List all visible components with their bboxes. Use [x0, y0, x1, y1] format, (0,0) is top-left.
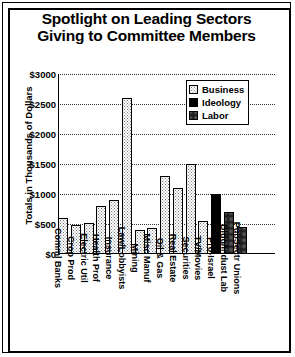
legend-item-labor: Labor	[189, 109, 244, 122]
x-axis-tick-labels: Comml BanksCrop ProdElectric UtilHealth …	[58, 256, 275, 352]
legend-label-business: Business	[202, 84, 244, 95]
chart-title-line-1: Spotlight on Leading Sectors	[42, 10, 252, 27]
x-tick-label: Crop Prod	[66, 236, 76, 280]
y-axis-tick-1: $2500	[8, 99, 56, 110]
x-tick-14: PubSectr Unions	[237, 256, 247, 352]
legend-item-business: Business	[189, 83, 244, 96]
legend-swatch-labor	[189, 111, 198, 120]
x-tick-label: Comml Banks	[53, 228, 63, 288]
legend-item-ideology: Ideology	[189, 96, 244, 109]
x-tick-label: Mining	[130, 244, 140, 273]
x-tick-label: Oil & Gas	[155, 238, 165, 279]
y-axis-tick-6: $0	[8, 249, 56, 260]
legend-label-ideology: Ideology	[202, 97, 241, 108]
x-tick-label: Insurance	[104, 237, 114, 280]
chart-figure: Spotlight on Leading Sectors Giving to C…	[0, 0, 295, 357]
x-tick-label: Bldg/Indust Lab	[219, 224, 229, 292]
x-tick-label: Electric Util	[79, 233, 89, 283]
x-tick-label: Securities	[181, 236, 191, 279]
legend-label-labor: Labor	[202, 110, 228, 121]
legend-swatch-ideology	[189, 98, 198, 107]
x-tick-label: PubSectr Unions	[232, 222, 242, 295]
y-axis-tick-5: $500	[8, 219, 56, 230]
chart-legend: BusinessIdeologyLabor	[186, 80, 249, 125]
y-axis-tick-4: $1000	[8, 189, 56, 200]
y-axis-tick-3: $1500	[8, 159, 56, 170]
x-tick-label: Pro-Israel	[206, 237, 216, 279]
y-axis-tick-labels: $3000$2500$2000$1500$1000$500$0	[8, 0, 56, 357]
x-tick-label: Misc Manuf	[142, 233, 152, 282]
x-tick-label: Real Estate	[168, 234, 178, 283]
x-tick-label: TV/Movies	[193, 236, 203, 281]
x-tick-label: Law/Lobbyists	[117, 227, 127, 290]
y-axis-tick-2: $2000	[8, 129, 56, 140]
x-tick-label: Health Prof	[91, 234, 101, 282]
y-axis-tick-0: $3000	[8, 69, 56, 80]
legend-swatch-business	[189, 85, 198, 94]
